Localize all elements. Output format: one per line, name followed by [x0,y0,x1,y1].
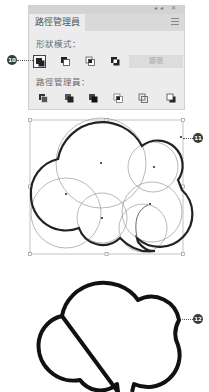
callout-12: 12 [193,314,203,324]
cloud-outline [39,283,180,392]
callout-12-leader [182,319,193,320]
merged-cloud-shape[interactable] [0,0,209,392]
